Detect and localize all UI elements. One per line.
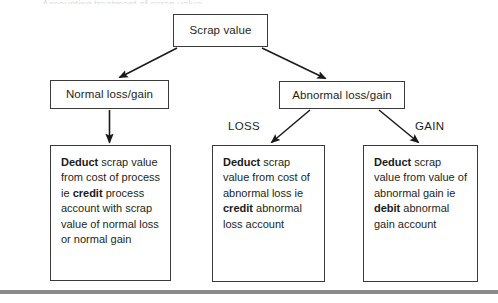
node-scrap-value-label: Scrap value — [190, 24, 252, 37]
cropped-heading-sliver: Accounting treatment of scrap value — [42, 0, 242, 4]
branch-label-gain: GAIN — [415, 120, 444, 132]
edge-scrap-to-normal — [120, 48, 178, 78]
branch-label-loss: LOSS — [228, 120, 260, 132]
edge-abnormal-to-loss — [272, 110, 311, 143]
edge-scrap-to-abnormal — [262, 48, 326, 79]
node-abnormal-loss-gain: Abnormal loss/gain — [279, 81, 405, 109]
node-abnormal-loss-treatment: Deduct scrap value from cost of abnormal… — [212, 145, 325, 282]
page-footer-rule — [0, 290, 498, 294]
edge-abnormal-to-gain — [379, 110, 419, 143]
node-normal-loss-gain-label: Normal loss/gain — [66, 88, 153, 101]
node-normal-loss-gain-treatment: Deduct scrap value from cost of process … — [50, 145, 171, 281]
node-scrap-value: Scrap value — [173, 14, 268, 47]
node-normal-loss-gain: Normal loss/gain — [50, 80, 169, 109]
diagram-canvas: Accounting treatment of scrap value Scra… — [0, 0, 498, 303]
node-abnormal-loss-gain-label: Abnormal loss/gain — [292, 89, 392, 102]
node-abnormal-gain-treatment: Deduct scrap value from value of abnorma… — [363, 145, 478, 282]
